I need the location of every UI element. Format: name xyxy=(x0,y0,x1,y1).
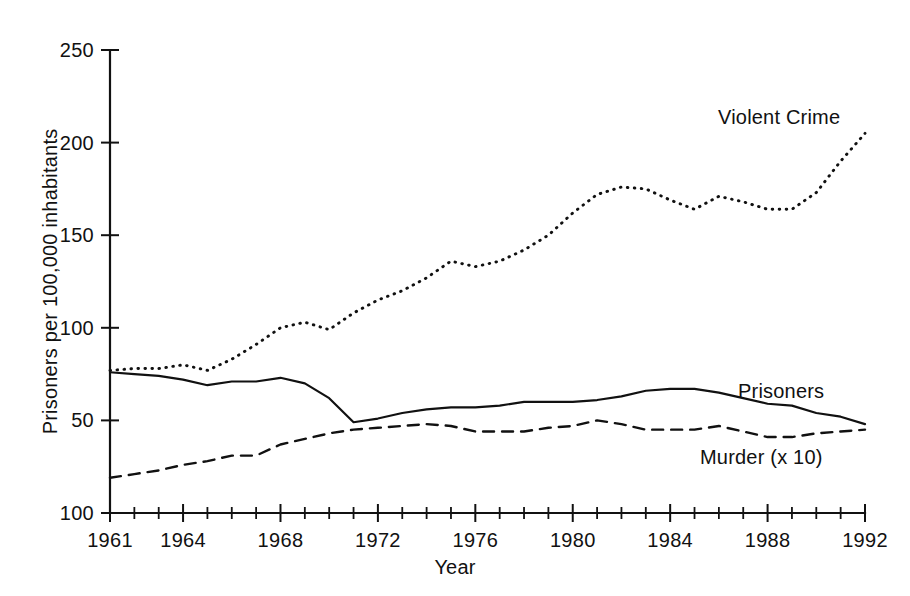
x-tick-label-1961: 1961 xyxy=(87,529,133,552)
x-tick-label-1972: 1972 xyxy=(355,529,401,552)
series-label-violent-crime: Violent Crime xyxy=(718,106,840,129)
x-tick-label-1988: 1988 xyxy=(745,529,791,552)
y-tick-label-250: 250 xyxy=(20,39,94,62)
series-label-prisoners: Prisoners xyxy=(738,380,824,403)
x-tick-label-1976: 1976 xyxy=(452,529,498,552)
x-tick-label-1984: 1984 xyxy=(647,529,693,552)
y-tick-label-100: 100 xyxy=(20,502,94,525)
x-tick-label-1968: 1968 xyxy=(258,529,304,552)
line-chart-plot xyxy=(0,0,910,596)
x-tick-label-1964: 1964 xyxy=(160,529,206,552)
series-group xyxy=(110,133,865,477)
y-axis-title: Prisoners per 100,000 inhabitants xyxy=(39,82,62,482)
series-label-murder: Murder (x 10) xyxy=(700,446,823,469)
series-path-violent-crime xyxy=(110,133,865,370)
chart-container: 25020015010050100 1961196419681972197619… xyxy=(0,0,910,596)
x-axis-title: Year xyxy=(0,556,910,579)
x-tick-label-1992: 1992 xyxy=(842,529,888,552)
x-tick-label-1980: 1980 xyxy=(550,529,596,552)
